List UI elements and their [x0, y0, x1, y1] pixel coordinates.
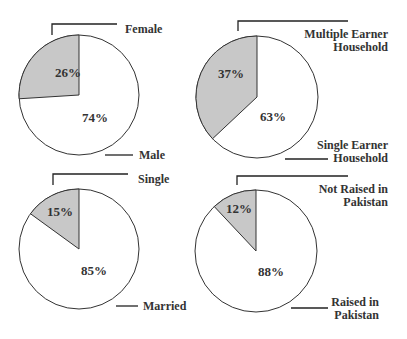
label-multiple-earner-2: Household: [333, 40, 388, 54]
leader-line-single: [53, 174, 128, 185]
label-single-earner-1: Single Earner: [317, 138, 389, 152]
label-female: Female: [125, 22, 163, 36]
label-raised-2: Pakistan: [334, 308, 379, 322]
label-single-earner-2: Household: [333, 151, 388, 165]
pie-gender: 26% 74% Female Male: [19, 22, 166, 162]
label-male: Male: [139, 148, 166, 162]
label-not-raised-1: Not Raised in: [319, 182, 389, 196]
pie-household: 37% 63% Multiple Earner Household Single…: [196, 21, 389, 165]
pct-not-raised: 12%: [226, 201, 252, 216]
pct-multiple-earner: 37%: [218, 66, 244, 81]
pie-chart-figure: 26% 74% Female Male 37% 63% Multiple Ear…: [0, 0, 407, 339]
label-not-raised-2: Pakistan: [343, 195, 388, 209]
label-married: Married: [143, 299, 187, 313]
pct-married: 85%: [81, 263, 107, 278]
pct-single: 15%: [47, 204, 73, 219]
pct-male: 74%: [82, 110, 108, 125]
pct-female: 26%: [55, 65, 81, 80]
pct-raised: 88%: [258, 264, 284, 279]
pie-raised-in-pakistan: 12% 88% Not Raised in Pakistan Raised in…: [195, 176, 388, 322]
label-multiple-earner-1: Multiple Earner: [304, 27, 388, 41]
pct-single-earner: 63%: [260, 109, 286, 124]
pie-marital-status: 15% 85% Single Married: [19, 172, 187, 313]
leader-line-female: [52, 24, 117, 35]
label-single: Single: [138, 172, 170, 186]
label-raised-1: Raised in: [331, 295, 379, 309]
